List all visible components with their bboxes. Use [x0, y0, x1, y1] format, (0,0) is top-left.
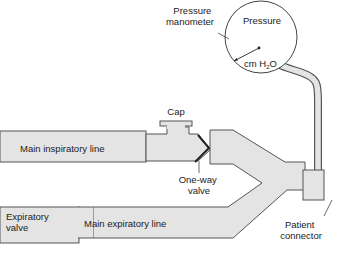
main-inspiratory-line-label: Main inspiratory line	[20, 143, 104, 154]
one-way-valve-label: One-way valve	[179, 174, 220, 196]
cap-label: Cap	[167, 106, 184, 117]
patient-connector	[303, 170, 324, 200]
gauge-title: Pressure	[243, 15, 281, 26]
ventilator-circuit-diagram: Pressure manometer Pressure cm H2O Cap M…	[0, 0, 343, 255]
gauge-unit: cm H2O	[244, 58, 277, 70]
patient-connector-label: Patient connector	[280, 219, 322, 241]
manometer-label: Pressure manometer	[166, 5, 214, 27]
main-expiratory-line-label: Main expiratory line	[84, 218, 166, 229]
